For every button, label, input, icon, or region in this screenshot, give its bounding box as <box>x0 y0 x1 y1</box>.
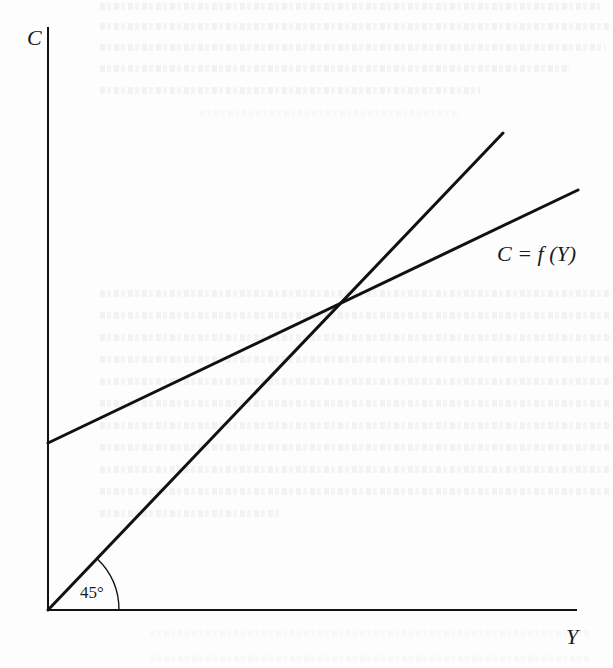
y-axis-label: Y <box>566 626 578 648</box>
angle-label: 45° <box>80 584 104 601</box>
forty-five-degree-line <box>48 133 503 610</box>
consumption-function-diagram <box>0 0 613 668</box>
consumption-function-label: C = f (Y) <box>497 243 576 265</box>
c-axis-label: C <box>27 27 42 49</box>
scanned-page: C Y C = f (Y) 45° <box>0 0 613 668</box>
consumption-function-line <box>48 190 578 443</box>
